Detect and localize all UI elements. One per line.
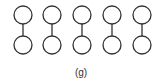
vertex-bottom [43,36,61,54]
edge-pair-1 [14,6,32,54]
figure-caption: (g) [0,67,160,78]
vertex-top [103,6,121,24]
vertex-top [73,6,91,24]
vertex-top [43,6,61,24]
vertex-bottom [103,36,121,54]
vertex-top [133,6,151,24]
edge-pair-4 [103,6,121,54]
vertex-top [14,6,32,24]
edge-pair-5 [133,6,151,54]
vertex-bottom [14,36,32,54]
edge-pair-3 [73,6,91,54]
vertex-bottom [133,36,151,54]
vertex-bottom [73,36,91,54]
edge-pair-2 [43,6,61,54]
